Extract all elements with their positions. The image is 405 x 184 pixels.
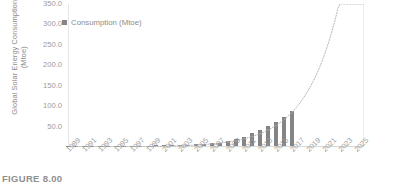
legend-label-consumption: Consumption (Mtoe) — [71, 18, 142, 27]
y-axis-tick-label: 300.0 — [26, 20, 62, 28]
figure-container: Global Solar Energy Consumption (Mtoe) 3… — [0, 0, 405, 184]
y-axis-tick-label: 50.0 — [26, 123, 62, 131]
y-axis-tick-label: 250.0 — [26, 41, 62, 49]
y-axis-tick-label: 150.0 — [26, 82, 62, 90]
legend: Consumption (Mtoe) — [62, 18, 142, 27]
y-axis-title-line-1: Global Solar Energy Consumption — [10, 0, 19, 115]
y-axis-tick-label: 350.0 — [26, 0, 62, 8]
x-axis-tick-labels: 1989199119931995199719992001200320052007… — [68, 148, 364, 178]
y-axis-tick-label: 200.0 — [26, 61, 62, 69]
legend-swatch-consumption-icon — [62, 20, 67, 25]
y-axis-tick-label: 100.0 — [26, 102, 62, 110]
y-axis-tick-labels: 350.0300.0250.0200.0150.0100.050.0 — [26, 0, 62, 184]
figure-caption: FIGURE 8.00 — [2, 173, 62, 184]
